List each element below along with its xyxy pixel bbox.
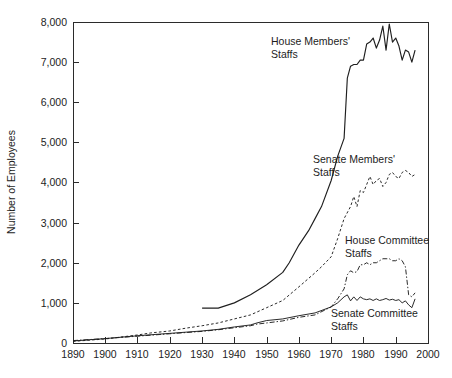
y-tick-label-4000: 4,000 [41, 176, 67, 188]
y-tick-labels: 0 1,000 2,000 3,000 4,000 5,000 6,000 7,… [41, 16, 67, 349]
y-tick-label-5000: 5,000 [41, 136, 67, 148]
senate-members-label-line2: Staffs [313, 166, 340, 178]
x-tick-label-2000: 2000 [416, 348, 440, 360]
house-committee-label-line1: House Committee [345, 234, 429, 246]
y-tick-label-8000: 8,000 [41, 16, 67, 28]
x-tick-label-1990: 1990 [384, 348, 408, 360]
annotations-group: House Members' Staffs Senate Members' St… [271, 35, 429, 332]
y-tick-label-2000: 2,000 [41, 257, 67, 269]
x-tick-label-1910: 1910 [125, 348, 149, 360]
house-members-label-line1: House Members' [271, 35, 350, 47]
x-tick-label-1930: 1930 [190, 348, 214, 360]
y-tick-label-6000: 6,000 [41, 96, 67, 108]
x-tick-marks [73, 337, 428, 343]
senate-committee-label-line1: Senate Committee [331, 307, 418, 319]
x-tick-label-1970: 1970 [319, 348, 343, 360]
y-tick-marks [73, 22, 79, 343]
x-axis-group: 1890 1900 1910 1920 1930 1940 1950 1960 … [61, 337, 440, 360]
y-tick-label-3000: 3,000 [41, 217, 67, 229]
y-tick-label-7000: 7,000 [41, 56, 67, 68]
employees-line-chart: 0 1,000 2,000 3,000 4,000 5,000 6,000 7,… [0, 0, 452, 378]
x-tick-label-1940: 1940 [222, 348, 246, 360]
series-house-committee-staffs [73, 259, 415, 341]
x-tick-label-1920: 1920 [158, 348, 182, 360]
x-tick-label-1960: 1960 [287, 348, 311, 360]
house-members-label-line2: Staffs [271, 48, 298, 60]
senate-members-label-line1: Senate Members' [313, 153, 395, 165]
x-tick-label-1900: 1900 [93, 348, 117, 360]
house-committee-label-line2: Staffs [345, 247, 372, 259]
y-axis-group: 0 1,000 2,000 3,000 4,000 5,000 6,000 7,… [5, 16, 79, 349]
series-house-members-staffs [202, 24, 415, 308]
chart-container: 0 1,000 2,000 3,000 4,000 5,000 6,000 7,… [0, 0, 452, 378]
y-tick-label-1000: 1,000 [41, 297, 67, 309]
x-tick-label-1980: 1980 [351, 348, 375, 360]
series-paths [73, 24, 415, 341]
x-tick-label-1950: 1950 [255, 348, 279, 360]
x-tick-label-1890: 1890 [61, 348, 85, 360]
x-tick-labels: 1890 1900 1910 1920 1930 1940 1950 1960 … [61, 348, 440, 360]
y-axis-title: Number of Employees [5, 130, 17, 234]
senate-committee-label-line2: Staffs [331, 320, 358, 332]
